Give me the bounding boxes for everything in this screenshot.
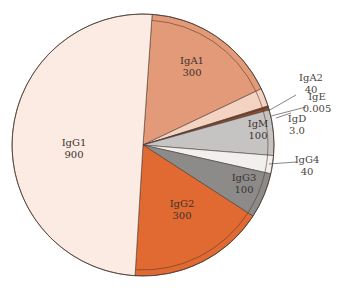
slice-value-igg1: 900 <box>64 149 83 160</box>
slices-layer <box>12 14 274 276</box>
slice-label-igg1: IgG1 <box>62 137 87 148</box>
slice-label-igm: IgM <box>248 118 269 129</box>
slice-value-igg2: 300 <box>172 210 191 221</box>
slice-label-ige: IgE <box>308 91 326 102</box>
slice-value-igd: 3.0 <box>289 125 305 136</box>
slice-label-igd: IgD <box>288 113 306 124</box>
slice-value-igg3: 100 <box>234 184 253 195</box>
leader-line-iga2 <box>268 95 296 111</box>
slice-value-iga1: 300 <box>182 67 201 78</box>
slice-value-ige: 0.005 <box>303 103 332 114</box>
slice-label-igg2: IgG2 <box>170 198 195 209</box>
slice-value-igm: 100 <box>248 130 267 141</box>
slice-value-igg4: 40 <box>301 166 314 177</box>
slice-label-igg3: IgG3 <box>232 172 257 183</box>
slice-label-iga1: IgA1 <box>180 55 204 66</box>
pie-chart: IgA1300IgA240IgE0.005IgD3.0IgM100IgG440I… <box>0 0 339 290</box>
slice-label-igg4: IgG4 <box>295 154 320 165</box>
slice-label-iga2: IgA2 <box>299 72 323 83</box>
